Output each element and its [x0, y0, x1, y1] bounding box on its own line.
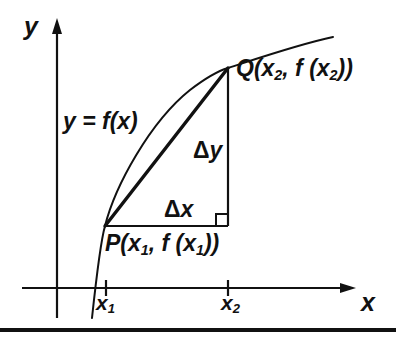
delta-x-label: Δx — [164, 198, 193, 221]
delta-x-variable: x — [181, 196, 194, 222]
x2-tick-label-sub: 2 — [233, 301, 240, 316]
x1-tick-label-sub: 1 — [108, 301, 115, 316]
function-equation-lhs: y = f — [63, 108, 110, 134]
delta-y-variable: y — [210, 137, 223, 163]
point-q-sub1: 2 — [274, 67, 282, 83]
point-p-sub2: 1 — [196, 242, 204, 258]
y-axis-arrowhead — [52, 18, 62, 34]
point-q-var1: x — [262, 55, 275, 81]
point-p-var1: x — [128, 230, 141, 256]
secant-line-diagram — [0, 0, 396, 347]
point-q-prefix: Q( — [236, 55, 262, 81]
point-p-label: P(x1, f (x1)) — [105, 232, 219, 255]
x2-tick-label: x2 — [221, 292, 240, 313]
delta-x-symbol: Δ — [164, 196, 181, 222]
point-p-mid: , f (x — [149, 230, 196, 256]
point-p-prefix: P( — [105, 230, 128, 256]
point-q-suffix: )) — [338, 55, 353, 81]
delta-y-label: Δy — [193, 139, 222, 162]
function-equation-label: y = f(x) — [63, 110, 138, 133]
point-q-sub2: 2 — [330, 67, 338, 83]
point-q-mid: , f (x — [282, 55, 329, 81]
delta-y-symbol: Δ — [193, 137, 210, 163]
x-axis-arrowhead — [340, 283, 356, 293]
point-p-suffix: )) — [204, 230, 219, 256]
x1-tick-label: x1 — [96, 292, 115, 313]
x1-tick-label-var: x — [96, 291, 108, 314]
x2-tick-label-var: x — [221, 291, 233, 314]
point-q-label: Q(x2, f (x2)) — [236, 57, 353, 80]
bottom-horizontal-rule — [0, 328, 396, 332]
function-equation-rhs: (x) — [110, 108, 138, 134]
x-axis-label: x — [361, 290, 375, 315]
right-angle-marker — [216, 214, 228, 226]
y-axis-label: y — [24, 14, 38, 39]
point-p-sub1: 1 — [141, 242, 149, 258]
